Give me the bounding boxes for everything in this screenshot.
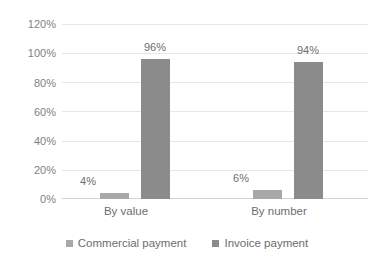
y-axis-tick-label: 120% — [10, 19, 56, 30]
bar-group-by-number: 6% 94% — [215, 24, 368, 199]
bar-commercial-by-value — [100, 193, 129, 199]
bar-commercial-by-number — [253, 190, 282, 199]
y-axis-tick-label: 0% — [10, 194, 56, 205]
chart-legend: Commercial payment Invoice payment — [0, 237, 374, 250]
legend-item-label: Invoice payment — [224, 237, 308, 250]
y-axis-tick-label: 80% — [10, 78, 56, 89]
bar-value-label: 6% — [215, 172, 267, 184]
y-axis-tick-label: 60% — [10, 107, 56, 118]
bar-value-label: 96% — [129, 41, 181, 53]
bar-value-label: 4% — [62, 175, 114, 187]
y-axis-tick-label: 100% — [10, 48, 56, 59]
y-axis-tick-label: 20% — [10, 165, 56, 176]
legend-swatch-icon — [212, 240, 219, 247]
legend-item-invoice-payment[interactable]: Invoice payment — [212, 237, 308, 250]
y-axis-tick-label: 40% — [10, 136, 56, 147]
plot-area: 4% 96% 6% 94% — [62, 24, 368, 199]
legend-item-label: Commercial payment — [78, 237, 187, 250]
bar-chart: 120% 100% 80% 60% 40% 20% 0% 4% 96% 6% — [0, 0, 374, 266]
bar-invoice-by-number — [294, 62, 323, 199]
bar-group-by-value: 4% 96% — [62, 24, 215, 199]
x-axis-category-label-by-value: By value — [51, 204, 201, 218]
legend-item-commercial-payment[interactable]: Commercial payment — [66, 237, 187, 250]
legend-swatch-icon — [66, 240, 73, 247]
x-axis-category-label-by-number: By number — [204, 204, 354, 218]
bar-invoice-by-value — [141, 59, 170, 199]
bar-value-label: 94% — [282, 44, 334, 56]
